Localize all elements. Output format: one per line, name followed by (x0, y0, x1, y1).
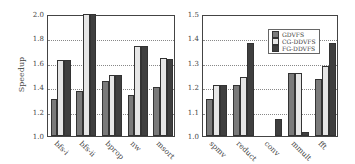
legend-swatch (272, 45, 279, 52)
y-tick-label: 1.1 (177, 109, 199, 117)
bar-mmult-gdvfs (288, 73, 295, 136)
bar-fft-fg-ddvfs (329, 43, 336, 136)
y-tick-label: 1.2 (177, 84, 199, 92)
bar-mmult-fg-ddvfs (302, 132, 309, 136)
x-tick-label: reduct (235, 139, 259, 163)
bar-spmv-gdvfs (206, 99, 213, 136)
gridline (203, 65, 337, 66)
legend: GDVFS CG-DDVFS FG-DDVFS (268, 29, 320, 54)
legend-item-cg-ddvfs: CG-DDVFS (272, 38, 316, 45)
legend-swatch (272, 31, 279, 38)
bar-conv-fg-ddvfs (275, 119, 282, 136)
bar-spmv-fg-ddvfs (220, 85, 227, 136)
bar-reduct-fg-ddvfs (247, 43, 254, 136)
legend-swatch (272, 38, 279, 45)
speedup-chart-right: GDVFS CG-DDVFS FG-DDVFS 1.01.11.21.31.41… (0, 0, 355, 164)
bar-mmult-cg-ddvfs (295, 73, 302, 136)
legend-item-fg-ddvfs: FG-DDVFS (272, 45, 316, 52)
x-tick-label: mmult (289, 139, 313, 163)
bar-reduct-cg-ddvfs (240, 77, 247, 136)
x-tick-label: conv (262, 139, 281, 158)
bar-fft-cg-ddvfs (322, 66, 329, 136)
bar-fft-gdvfs (315, 79, 322, 136)
y-tick-label: 1.5 (177, 11, 199, 19)
y-tick-label: 1.3 (177, 60, 199, 68)
y-tick-label: 1.4 (177, 35, 199, 43)
x-tick-label: fft (317, 139, 329, 151)
legend-item-gdvfs: GDVFS (272, 31, 316, 38)
x-tick-label: spmv (208, 139, 229, 160)
bar-spmv-cg-ddvfs (213, 85, 220, 136)
y-tick-label: 1.0 (177, 133, 199, 141)
bar-reduct-gdvfs (233, 85, 240, 136)
